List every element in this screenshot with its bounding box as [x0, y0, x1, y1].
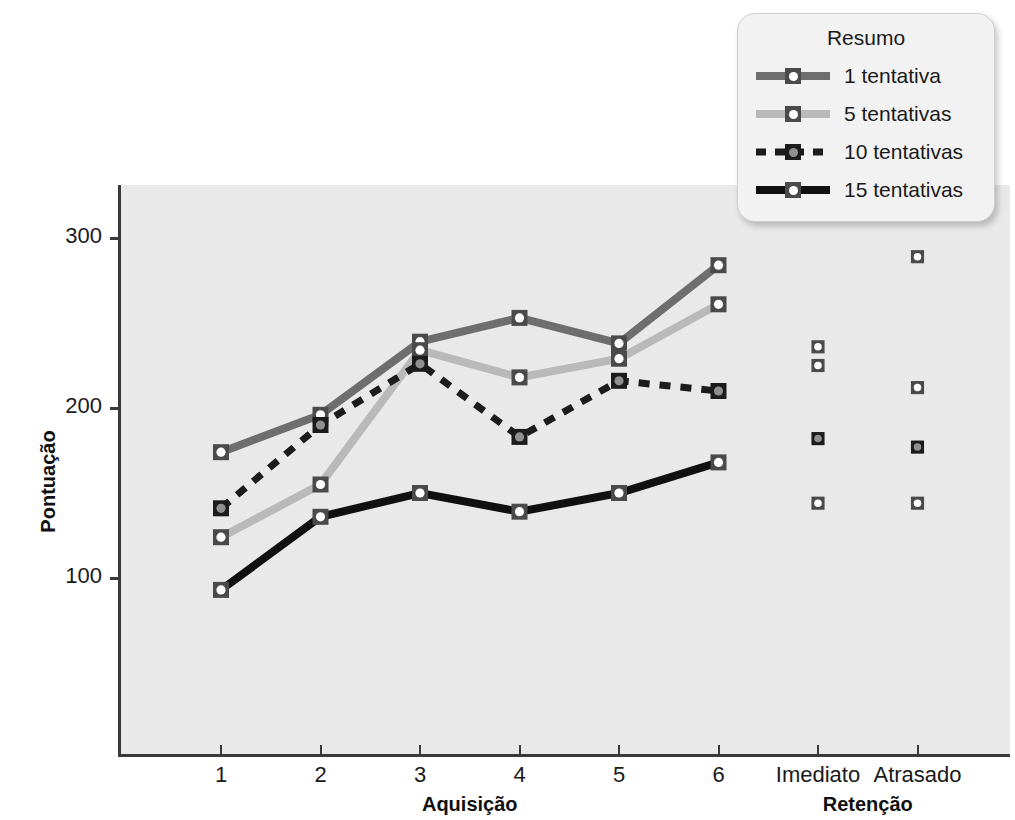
y-tick: [110, 407, 121, 410]
legend-item-1[interactable]: 1 tentativa: [738, 57, 994, 95]
legend-label: 15 tentativas: [844, 178, 963, 202]
legend-swatch-icon: [756, 141, 830, 163]
x-tick: [817, 745, 819, 755]
legend-item-4[interactable]: 15 tentativas: [738, 171, 994, 209]
y-tick-label: 100: [40, 563, 102, 589]
x-tick-label: 1: [215, 762, 227, 788]
x-tick: [320, 745, 322, 755]
legend-title: Resumo: [738, 22, 994, 57]
x-tick-label: 3: [414, 762, 426, 788]
x-tick: [519, 745, 521, 755]
legend-label: 1 tentativa: [844, 64, 941, 88]
y-tick-label: 300: [40, 223, 102, 249]
x-tick-label: Atrasado: [873, 762, 961, 788]
legend-marker-icon: [785, 68, 801, 84]
legend-marker-icon: [785, 106, 801, 122]
legend-swatch-icon: [756, 103, 830, 125]
legend-entries: 1 tentativa5 tentativas10 tentativas15 t…: [738, 57, 994, 209]
x-tick-label: 2: [314, 762, 326, 788]
legend-swatch-icon: [756, 179, 830, 201]
chart-figure: 100200300 123456ImediatoAtrasado Pontuaç…: [0, 0, 1015, 820]
x-tick-label: 5: [613, 762, 625, 788]
y-axis-title: Pontuação: [37, 412, 60, 552]
legend-box[interactable]: Resumo 1 tentativa5 tentativas10 tentati…: [737, 13, 995, 222]
x-tick: [419, 745, 421, 755]
plot-area: [120, 185, 1010, 757]
y-axis-line: [118, 185, 121, 757]
x-tick-label: Imediato: [776, 762, 860, 788]
x-axis-line: [118, 754, 1010, 757]
y-tick: [110, 577, 121, 580]
x-tick: [618, 745, 620, 755]
legend-item-3[interactable]: 10 tentativas: [738, 133, 994, 171]
legend-label: 10 tentativas: [844, 140, 963, 164]
x-group-label: Retenção: [823, 793, 913, 816]
legend-marker-icon: [785, 182, 801, 198]
x-tick: [220, 745, 222, 755]
x-tick: [917, 745, 919, 755]
x-tick: [718, 745, 720, 755]
legend-item-2[interactable]: 5 tentativas: [738, 95, 994, 133]
x-group-label: Aquisição: [422, 793, 518, 816]
x-tick-label: 4: [513, 762, 525, 788]
y-tick: [110, 237, 121, 240]
legend-label: 5 tentativas: [844, 102, 951, 126]
legend-swatch-icon: [756, 65, 830, 87]
legend-marker-icon: [785, 144, 801, 160]
x-tick-label: 6: [712, 762, 724, 788]
